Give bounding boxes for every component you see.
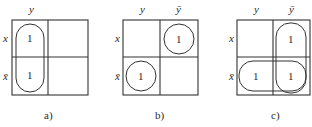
row-label-x: x xyxy=(2,32,8,44)
caption-b: b) xyxy=(155,109,165,122)
col-label-y: y xyxy=(139,3,145,15)
cell-value: 1 xyxy=(27,32,33,44)
cell-value: 1 xyxy=(27,69,33,81)
cell-value: 1 xyxy=(253,70,259,82)
col-label-y: y xyxy=(253,3,259,15)
kmap-c: y ȳ x x̄ 1 1 1 c) xyxy=(228,3,310,122)
col-label-y-bar: ȳ xyxy=(175,3,182,15)
cell-value: 1 xyxy=(288,33,294,45)
cell-value: 1 xyxy=(176,33,182,45)
col-label-y-bar: ȳ xyxy=(288,3,295,15)
caption-a: a) xyxy=(44,109,53,122)
cell-value: 1 xyxy=(288,70,294,82)
row-label-x-bar: x̄ xyxy=(228,70,234,82)
karnaugh-map-figure: y x x̄ 1 1 a) y ȳ x x̄ 1 1 b) y ȳ x x̄ 1 xyxy=(0,0,312,127)
row-label-x: x xyxy=(114,32,120,44)
kmap-a: y x x̄ 1 1 a) xyxy=(2,3,88,122)
col-label-y: y xyxy=(28,3,34,15)
kmap-b: y ȳ x x̄ 1 1 b) xyxy=(114,3,198,122)
row-label-x: x xyxy=(228,32,234,44)
row-label-x-bar: x̄ xyxy=(2,70,8,82)
cell-value: 1 xyxy=(138,70,144,82)
row-label-x-bar: x̄ xyxy=(114,70,120,82)
caption-c: c) xyxy=(271,109,280,122)
